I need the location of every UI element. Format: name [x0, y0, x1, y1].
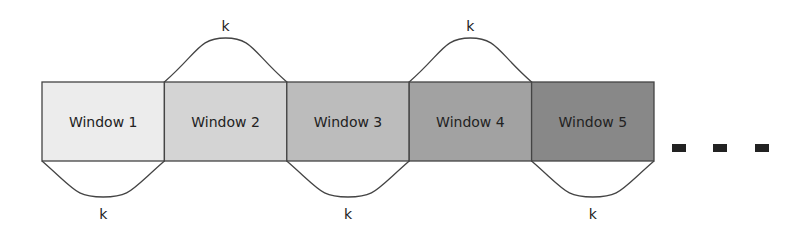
ellipsis-dot — [672, 144, 686, 152]
window-4: Window 4 — [409, 82, 531, 161]
window-label: Window 4 — [436, 114, 505, 130]
overlap-arc-4: k — [409, 18, 531, 82]
arc-curve — [287, 161, 409, 197]
arc-label-k: k — [344, 206, 353, 222]
window-1: Window 1 — [42, 82, 164, 161]
arc-curve — [42, 161, 164, 197]
overlap-arc-3: k — [287, 161, 409, 222]
window-label: Window 1 — [69, 114, 138, 130]
arc-label-k: k — [589, 206, 598, 222]
window-label: Window 2 — [191, 114, 260, 130]
window-label: Window 3 — [314, 114, 383, 130]
arc-curve — [409, 38, 531, 82]
overlap-arc-1: k — [42, 161, 164, 222]
overlap-arc-2: k — [164, 18, 286, 82]
continuation-dots — [672, 144, 769, 152]
windows-layer: Window 1Window 2Window 3Window 4Window 5 — [42, 82, 654, 161]
arc-label-k: k — [222, 18, 231, 34]
overlap-arc-5: k — [532, 161, 654, 222]
arc-curve — [532, 161, 654, 197]
window-5: Window 5 — [532, 82, 654, 161]
window-2: Window 2 — [164, 82, 286, 161]
arc-label-k: k — [99, 206, 108, 222]
window-3: Window 3 — [287, 82, 409, 161]
sliding-window-diagram: Window 1Window 2Window 3Window 4Window 5… — [0, 0, 802, 235]
arc-label-k: k — [466, 18, 475, 34]
ellipsis-dot — [755, 144, 769, 152]
arc-curve — [164, 38, 286, 82]
ellipsis-dot — [713, 144, 727, 152]
window-label: Window 5 — [559, 114, 628, 130]
